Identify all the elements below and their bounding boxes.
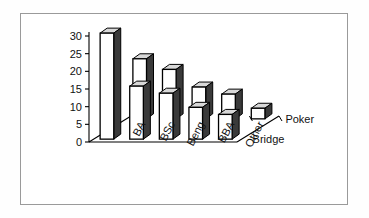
bar (251, 103, 272, 119)
chart-figure: 051015202530BABScBengBBAOtherPokerBridge (0, 0, 369, 218)
y-tick-label: 10 (70, 101, 82, 113)
bar-front-face (251, 108, 265, 119)
y-tick-label: 0 (76, 136, 82, 148)
bar-side-face (114, 28, 121, 139)
y-tick-label: 30 (70, 30, 82, 42)
y-tick-label: 25 (70, 48, 82, 60)
bar-chart-3d: 051015202530BABScBengBBAOtherPokerBridge (0, 0, 369, 218)
x-tick-mark (279, 116, 282, 121)
y-tick-label: 15 (70, 83, 82, 95)
y-axis-ticks: 051015202530 (70, 30, 89, 148)
y-tick-label: 20 (70, 65, 82, 77)
bar-front-face (100, 33, 114, 139)
series-label: Poker (285, 113, 314, 125)
bars-group (100, 28, 272, 139)
bar-side-face (203, 102, 210, 139)
bar-side-face (173, 88, 180, 139)
y-tick-label: 5 (76, 118, 82, 130)
bar (100, 28, 121, 139)
series-label: Bridge (253, 133, 285, 145)
